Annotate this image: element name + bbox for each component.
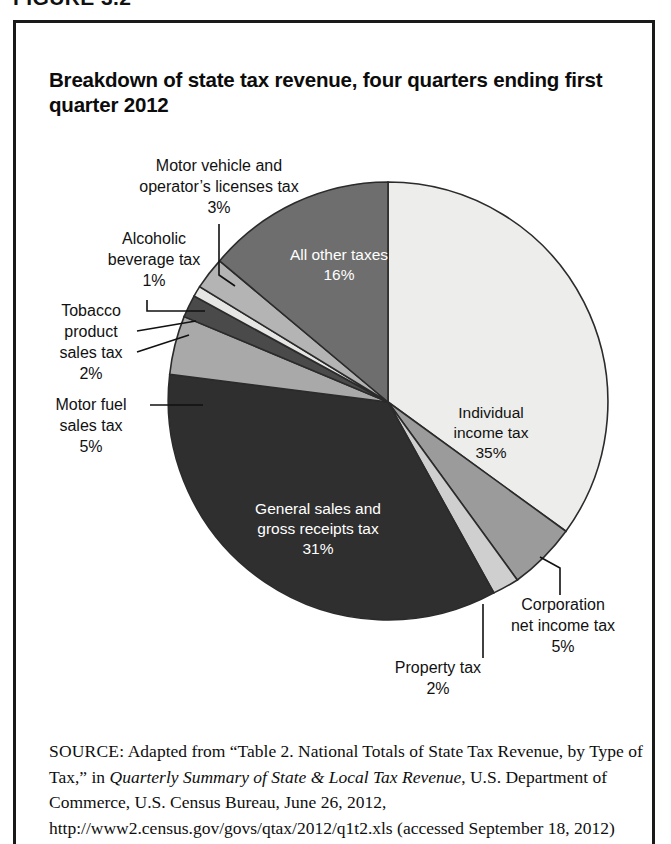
callout-motor-vehicle-pct: 3% [207,199,230,216]
slice-label-individual-income-tax-line2: income tax [454,424,529,441]
callout-corporation-line2: net income tax [511,617,615,634]
callout-corporation-pct: 5% [551,638,574,655]
pie-chart: Individual income tax 35% All other taxe… [13,110,655,700]
callout-alcoholic-line2: beverage tax [108,251,201,268]
slice-label-individual-income-tax-pct: 35% [475,444,506,461]
callout-property-tax-line1: Property tax [395,659,481,676]
slice-label-individual-income-tax-line1: Individual [458,404,524,421]
slice-label-all-other-taxes-pct: 16% [323,266,354,283]
callout-property-tax-pct: 2% [426,680,449,697]
callout-tobacco-pct: 2% [79,365,102,382]
pie-chart-svg: Individual income tax 35% All other taxe… [13,110,655,700]
slice-label-general-sales-pct: 31% [302,540,333,557]
callout-motor-fuel-line1: Motor fuel [55,396,126,413]
callout-motor-vehicle-line1: Motor vehicle and [156,157,282,174]
leader-line-corporation [540,557,560,595]
source-publication-title: Quarterly Summary of State & Local Tax R… [110,767,462,787]
callout-corporation-line1: Corporation [521,596,605,613]
source-note: SOURCE: Adapted from “Table 2. National … [49,739,649,841]
callout-alcoholic-line1: Alcoholic [122,230,186,247]
slice-label-general-sales-line1: General sales and [255,500,381,517]
callout-tobacco-line1: Tobacco [61,302,121,319]
figure-number-label: FIGURE 3.2 [13,0,131,10]
callout-tobacco-line3: sales tax [59,344,122,361]
slice-label-general-sales-line2: gross receipts tax [257,520,379,537]
slice-label-all-other-taxes-line1: All other taxes [290,246,388,263]
callout-tobacco-line2: product [64,323,118,340]
source-kicker: SOURCE: [49,741,124,761]
callout-alcoholic-pct: 1% [142,272,165,289]
callout-motor-fuel-line2: sales tax [59,417,122,434]
callout-motor-fuel-pct: 5% [79,438,102,455]
callout-motor-vehicle-line2: operator’s licenses tax [139,178,299,195]
